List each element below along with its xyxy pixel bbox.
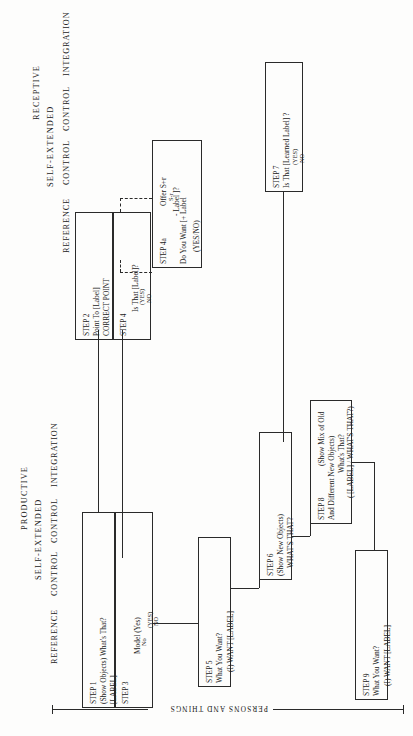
flow-box-step5-line2: (I) WANT [LABEL] — [226, 611, 235, 672]
figure-canvas: RECEPTIVE SELF-EXTENDED PRODUCTIVE SELF-… — [0, 0, 413, 736]
flow-box-step8-line3: What's That? — [337, 434, 346, 473]
column-header-productive-integration: INTEGRATION — [50, 423, 59, 487]
connector-step3-to-step5 — [153, 623, 198, 624]
connector-step9-riser — [374, 462, 375, 550]
flow-box-step6-line1: (Show New Objects) — [276, 514, 285, 576]
axis-rule-right — [273, 709, 404, 710]
flow-box-step8-line1: (Show Mix of Old — [317, 412, 326, 466]
flow-box-step4a-line1: Offer S+r — [159, 178, 168, 206]
flow-box-step3-step-label: STEP 3 — [121, 681, 130, 704]
flow-box-step8-step-label: STEP 8 — [317, 497, 326, 520]
connector-step4-to-step7 — [283, 192, 284, 344]
flow-box-step3[interactable] — [115, 512, 153, 708]
flow-box-step3-line1: Model (Yes) — [133, 617, 142, 654]
connector-step1-to-step2 — [98, 330, 99, 512]
flow-box-step9-line2: (I) WANT [LABEL] — [383, 625, 392, 686]
axis-tick-left — [52, 705, 53, 714]
group-title-receptive: RECEPTIVE — [32, 65, 41, 120]
flow-box-step6-step-label: STEP 6 — [266, 553, 275, 576]
flow-box-step4-line3: NO — [145, 294, 153, 303]
flow-box-step2-step-label: STEP 2 — [82, 313, 91, 336]
flow-box-step4-step-label: STEP 4 — [119, 313, 128, 336]
group-title-productive: PRODUCTIVE — [20, 466, 29, 530]
flow-box-step4a-line4: - Label ]? — [172, 187, 181, 216]
column-header-productive-control-1: CONTROL — [50, 551, 59, 596]
axis-label-persons-and-things: PERSONS AND THINGS — [169, 704, 268, 713]
group-title-self-extended-productive: SELF-EXTENDED — [34, 499, 43, 580]
connector-step6-to-step8 — [292, 536, 310, 537]
flow-box-step4a-step-label: STEP 4a — [159, 238, 168, 264]
column-header-receptive-control-1: CONTROL — [62, 140, 71, 185]
axis-tick-right — [403, 705, 404, 714]
flow-box-step7-step-label: STEP 7 — [272, 165, 281, 188]
column-header-productive-reference: REFERENCE — [50, 609, 59, 664]
flow-box-step8-line2: And Different New Objects) — [327, 436, 336, 520]
flow-box-step4a-line5: (YES/NO) — [192, 220, 201, 252]
flow-box-step2-line2: CORRECT POINT — [102, 278, 111, 336]
flow-box-step7-line3: NO — [298, 154, 306, 163]
dashed-connector-step4-to-step4a-upper — [120, 198, 152, 199]
flow-box-step3-line4: NO — [152, 617, 160, 626]
flow-box-step7-line1: Is That [Learned Label] ? — [282, 113, 291, 188]
column-header-receptive-control-2: CONTROL — [62, 86, 71, 131]
flow-box-step5-step-label: STEP 5 — [205, 660, 214, 683]
connector-step8-right-stub — [352, 462, 374, 463]
group-title-self-extended-receptive: SELF-EXTENDED — [46, 106, 55, 187]
dashed-connector-step4a-lower-rise — [120, 260, 121, 272]
flow-box-step5-line1: What You Want? — [215, 633, 224, 683]
flow-box-step6-line2: WHAT'S THAT? — [286, 517, 295, 568]
column-header-receptive-reference: REFERENCE — [62, 198, 71, 253]
axis-rule-left — [52, 709, 148, 710]
flow-box-step2-line1: Point To [Label] — [92, 287, 101, 336]
dashed-connector-step4a-upper-drop — [120, 198, 121, 212]
connector-step7-spine-lower — [283, 344, 284, 442]
flow-box-step1-step-label: STEP 1 — [89, 681, 98, 704]
dashed-connector-step4-to-step4a-lower — [120, 272, 152, 273]
flow-box-step8-line4: ( [LABEL] / WHAT'S THAT?) — [346, 406, 355, 498]
column-header-productive-control-2: CONTROL — [50, 498, 59, 543]
column-header-receptive-integration: INTEGRATION — [62, 12, 71, 76]
flow-box-step9-line1: What You Want? — [372, 646, 381, 696]
flow-box-step9-step-label: STEP 9 — [362, 673, 371, 696]
flow-box-step3-line2: No — [140, 638, 148, 646]
flow-box-step1-line1: (Show Objects) What's That? — [99, 617, 108, 704]
connector-step5-to-step6 — [231, 588, 259, 589]
